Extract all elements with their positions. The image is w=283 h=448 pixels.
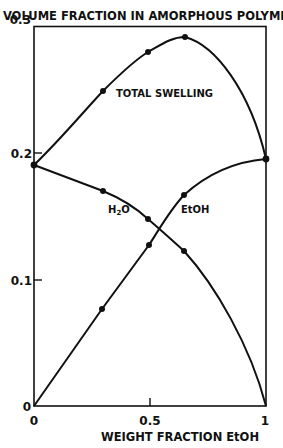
plot-frame xyxy=(34,27,266,407)
x-tick-1: 1 xyxy=(261,414,269,428)
label-total-swelling: TOTAL SWELLING xyxy=(116,88,213,99)
x-tick-0.5: 0.5 xyxy=(139,414,160,428)
y-tick-0.2: 0.2 xyxy=(11,147,32,161)
y-tick-0.1: 0.1 xyxy=(11,274,32,288)
x-tick-0: 0 xyxy=(30,414,38,428)
y-tick-0.3: 0.3 xyxy=(10,13,31,27)
y-axis xyxy=(34,153,42,280)
chart: VOLUME FRACTION IN AMORPHOUS POLYMER 0.3… xyxy=(0,0,283,448)
data-markers xyxy=(31,34,270,312)
series-h2o-line xyxy=(34,165,266,406)
x-axis-label: WEIGHT FRACTION EtOH xyxy=(101,430,259,444)
series-etoh-line xyxy=(34,159,266,406)
chart-title: VOLUME FRACTION IN AMORPHOUS POLYMER xyxy=(3,9,283,23)
label-etoh: EtOH xyxy=(181,204,209,215)
y-tick-0: 0 xyxy=(23,400,31,414)
label-h2o: H2O xyxy=(108,204,130,217)
series-total-swelling-line xyxy=(34,37,266,165)
